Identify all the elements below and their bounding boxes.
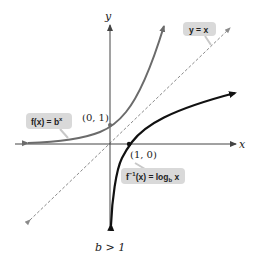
y-axis-label: y [104, 10, 112, 23]
point-0-1 [108, 123, 112, 127]
exp-label: f(x) = bx [31, 116, 63, 127]
condition-label: b > 1 [95, 241, 125, 254]
point-1-0 [127, 142, 131, 146]
exp-callout-pointer [60, 129, 68, 138]
point-1-0-label: (1, 0) [130, 149, 157, 160]
x-axis-label: x [239, 138, 246, 151]
identity-label: y = x [189, 25, 208, 35]
graph-canvas: f(x) = bx y = x f−1(x) = logb x (0, 1) (… [0, 0, 257, 263]
identity-callout-pointer [205, 36, 211, 45]
point-0-1-label: (0, 1) [82, 112, 109, 123]
